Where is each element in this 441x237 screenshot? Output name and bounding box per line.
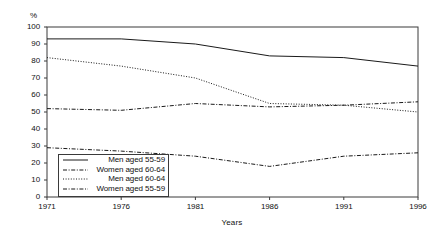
- y-axis-tick-label: 100: [18, 22, 40, 31]
- legend-line-swatch: [59, 174, 92, 183]
- x-axis-tick-label: 1971: [27, 202, 67, 211]
- y-axis-tick-label: 90: [18, 39, 40, 48]
- legend-item: Men aged 55-59: [59, 155, 168, 165]
- x-axis-tick-label: 1976: [101, 202, 141, 211]
- legend-item: Women aged 55-59: [59, 184, 168, 194]
- y-axis-tick-label: 0: [18, 192, 40, 201]
- x-axis-tick-label: 1991: [324, 202, 364, 211]
- x-axis-tick-label: 1981: [175, 202, 215, 211]
- legend-item-label: Women aged 55-59: [92, 184, 168, 193]
- y-axis-tick-label: 30: [18, 141, 40, 150]
- line-chart: % 0102030405060708090100 197119761981198…: [0, 0, 441, 237]
- y-axis-tick-label: 50: [18, 107, 40, 116]
- legend-line-swatch: [59, 165, 92, 174]
- legend-item: Men aged 60-64: [59, 174, 168, 184]
- y-axis-tick-label: 20: [18, 158, 40, 167]
- legend-item-label: Men aged 55-59: [92, 155, 168, 164]
- series-line: [47, 102, 418, 111]
- x-axis-tick-label: 1996: [398, 202, 438, 211]
- y-axis-tick-label: 10: [18, 175, 40, 184]
- legend-line-swatch: [59, 155, 92, 164]
- y-axis-tick-label: 70: [18, 73, 40, 82]
- series-line: [47, 58, 418, 112]
- data-series-lines: [47, 39, 418, 166]
- series-line: [47, 39, 418, 66]
- y-axis-tick-label: 80: [18, 56, 40, 65]
- legend-item-label: Men aged 60-64: [92, 174, 168, 183]
- legend-item-label: Women aged 60-64: [92, 165, 168, 174]
- x-axis-tick-label: 1986: [250, 202, 290, 211]
- y-axis-tick-label: 40: [18, 124, 40, 133]
- legend-line-swatch: [59, 184, 92, 193]
- legend-item: Women aged 60-64: [59, 165, 168, 175]
- x-axis-title: Years: [192, 218, 272, 227]
- y-axis-tick-label: 60: [18, 90, 40, 99]
- chart-legend: Men aged 55-59Women aged 60-64Men aged 6…: [58, 154, 169, 197]
